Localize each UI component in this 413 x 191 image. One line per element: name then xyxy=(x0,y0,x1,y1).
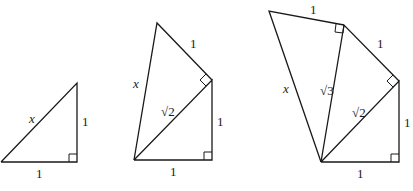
label-mid-leg: 1 xyxy=(377,36,384,51)
label-top-leg: 1 xyxy=(190,36,197,51)
label-bottom-leg: 1 xyxy=(357,166,364,181)
triangle-1-outline xyxy=(1,83,77,162)
label-bottom-leg: 1 xyxy=(170,164,177,179)
label-bottom-leg: 1 xyxy=(36,166,43,181)
right-angle-marker xyxy=(69,154,77,162)
label-hypotenuse-x: x xyxy=(28,111,35,126)
triangle-3: x 1 1 √3 √2 1 1 xyxy=(269,2,411,181)
right-angle-marker xyxy=(200,74,212,86)
label-hypotenuse-x: x xyxy=(132,76,139,91)
label-hypotenuse-x: x xyxy=(282,81,289,96)
label-vertical-leg: 1 xyxy=(82,114,89,129)
triangle-1: x 1 1 xyxy=(1,83,89,181)
label-vertical-leg: 1 xyxy=(217,114,224,129)
triangle-2: x 1 √2 1 1 xyxy=(132,23,224,179)
label-sqrt3: √3 xyxy=(320,83,334,98)
spiral-of-theodorus-diagram: x 1 1 x 1 √2 1 1 x 1 1 √3 √2 1 1 xyxy=(0,0,413,191)
label-vertical-leg: 1 xyxy=(404,115,411,130)
label-sqrt2: √2 xyxy=(352,105,366,120)
right-angle-marker xyxy=(204,152,212,160)
right-angle-marker xyxy=(391,154,399,162)
right-angle-marker xyxy=(387,75,399,87)
label-sqrt2: √2 xyxy=(161,104,175,119)
label-top-leg: 1 xyxy=(310,2,317,17)
